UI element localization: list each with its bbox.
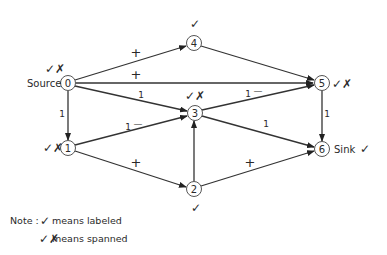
edge-2-6 bbox=[201, 151, 314, 186]
edge-1-3 bbox=[75, 116, 187, 145]
sink-label: Sink bbox=[334, 144, 355, 155]
note-prefix: Note : bbox=[10, 215, 39, 226]
edge-3-6-label: 1 bbox=[263, 119, 269, 129]
node-3-label: 3 bbox=[192, 108, 198, 119]
edge-3-5-num: 1 bbox=[245, 89, 251, 99]
node-0-spanned-mark: ✓✗ bbox=[45, 62, 65, 76]
edge-3-6 bbox=[202, 116, 314, 147]
note-line-2: means spanned bbox=[52, 233, 128, 244]
edge-4-5 bbox=[201, 46, 314, 80]
edge-1-3-num: 1 bbox=[125, 122, 131, 132]
node-1-label: 1 bbox=[65, 143, 71, 154]
node-3-spanned-mark: ✓✗ bbox=[185, 89, 205, 103]
edge-0-4-label: + bbox=[131, 45, 142, 60]
edge-1-3-sign: — bbox=[134, 119, 143, 129]
note-line-1: means labeled bbox=[52, 215, 122, 226]
node-2-label: 2 bbox=[191, 184, 197, 195]
edge-1-2-label: + bbox=[131, 155, 142, 170]
edge-0-1-label: 1 bbox=[59, 109, 65, 119]
node-1-spanned-mark: ✓✗ bbox=[43, 141, 63, 155]
edge-0-5-label: + bbox=[131, 67, 142, 82]
node-0-label: 0 bbox=[65, 78, 71, 89]
edge-3-5-sign: — bbox=[254, 86, 263, 96]
note-labeled-mark: ✓ bbox=[40, 214, 50, 228]
flow-network-diagram: 0 1 2 3 4 5 6 Source Sink + + + + 1 1 1 … bbox=[0, 0, 387, 255]
node-6-label: 6 bbox=[319, 144, 325, 155]
node-6-labeled-mark: ✓ bbox=[360, 142, 370, 156]
edge-0-3 bbox=[75, 86, 187, 111]
edge-5-6-label: 1 bbox=[324, 109, 330, 119]
node-4-label: 4 bbox=[191, 38, 197, 49]
node-2-labeled-mark: ✓ bbox=[191, 201, 201, 215]
edge-2-6-label: + bbox=[245, 155, 256, 170]
node-4-labeled-mark: ✓ bbox=[190, 17, 200, 31]
edge-0-3-label: 1 bbox=[138, 90, 144, 100]
source-label: Source bbox=[27, 78, 61, 89]
node-5-label: 5 bbox=[319, 78, 325, 89]
node-5-spanned-mark: ✓✗ bbox=[332, 77, 352, 91]
